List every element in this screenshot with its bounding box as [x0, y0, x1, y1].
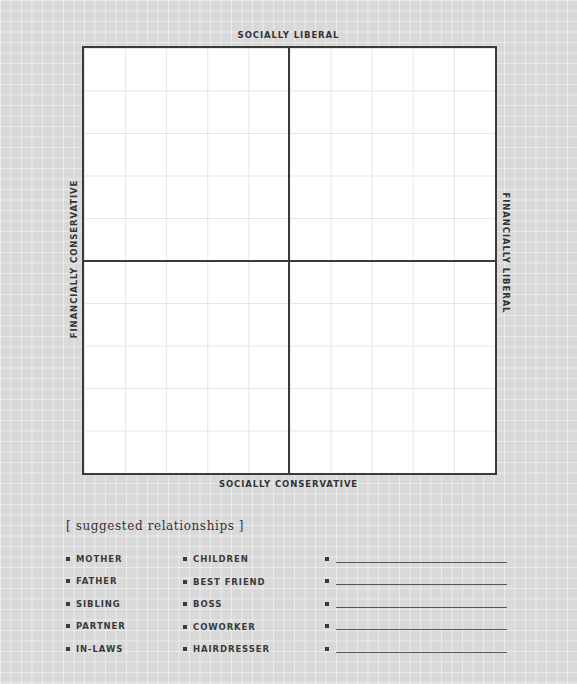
bullet-icon — [325, 602, 329, 606]
relationship-label: MOTHER — [76, 554, 122, 564]
bullet-icon — [66, 647, 70, 651]
relationship-item: IN-LAWS — [66, 644, 123, 654]
relationship-label: FATHER — [76, 576, 117, 586]
bullet-icon — [66, 602, 70, 606]
relationship-label: CHILDREN — [193, 554, 249, 564]
write-in-line[interactable] — [325, 555, 507, 565]
axis-label-financially-liberal: FINANCIALLY LIBERAL — [501, 193, 511, 314]
bullet-icon — [183, 580, 187, 584]
relationship-label: PARTNER — [76, 621, 126, 631]
horizontal-axis-line — [84, 260, 495, 262]
write-in-line[interactable] — [325, 577, 507, 587]
bullet-icon — [325, 557, 329, 561]
bullet-icon — [66, 557, 70, 561]
axis-label-socially-liberal: SOCIALLY LIBERAL — [0, 30, 577, 40]
relationship-label: HAIRDRESSER — [193, 644, 270, 654]
relationship-label: BOSS — [193, 599, 222, 609]
write-in-line[interactable] — [325, 622, 507, 632]
bullet-icon — [325, 579, 329, 583]
write-in-line[interactable] — [325, 600, 507, 610]
bullet-icon — [183, 557, 187, 561]
suggested-relationships-title: [ suggested relationships ] — [66, 519, 244, 533]
relationship-item: CHILDREN — [183, 554, 249, 564]
relationship-item: MOTHER — [66, 554, 122, 564]
relationship-item: HAIRDRESSER — [183, 644, 270, 654]
relationship-item: SIBLING — [66, 599, 121, 609]
relationship-label: IN-LAWS — [76, 644, 123, 654]
bullet-icon — [183, 602, 187, 606]
relationship-item: BOSS — [183, 599, 222, 609]
underline — [336, 629, 507, 630]
relationship-item: COWORKER — [183, 622, 256, 632]
relationship-label: COWORKER — [193, 622, 256, 632]
relationship-label: SIBLING — [76, 599, 121, 609]
underline — [336, 652, 507, 653]
underline — [336, 584, 507, 585]
relationship-label: BEST FRIEND — [193, 577, 266, 587]
write-in-line[interactable] — [325, 645, 507, 655]
relationship-item: PARTNER — [66, 621, 126, 631]
relationship-item: BEST FRIEND — [183, 577, 266, 587]
axis-label-socially-conservative: SOCIALLY CONSERVATIVE — [0, 479, 577, 489]
bullet-icon — [325, 624, 329, 628]
bullet-icon — [183, 625, 187, 629]
bullet-icon — [183, 647, 187, 651]
bullet-icon — [325, 647, 329, 651]
bullet-icon — [66, 624, 70, 628]
quadrant-chart[interactable] — [82, 46, 497, 475]
bullet-icon — [66, 579, 70, 583]
relationship-item: FATHER — [66, 576, 117, 586]
underline — [336, 607, 507, 608]
axis-label-financially-conservative: FINANCIALLY CONSERVATIVE — [69, 180, 79, 338]
underline — [336, 562, 507, 563]
